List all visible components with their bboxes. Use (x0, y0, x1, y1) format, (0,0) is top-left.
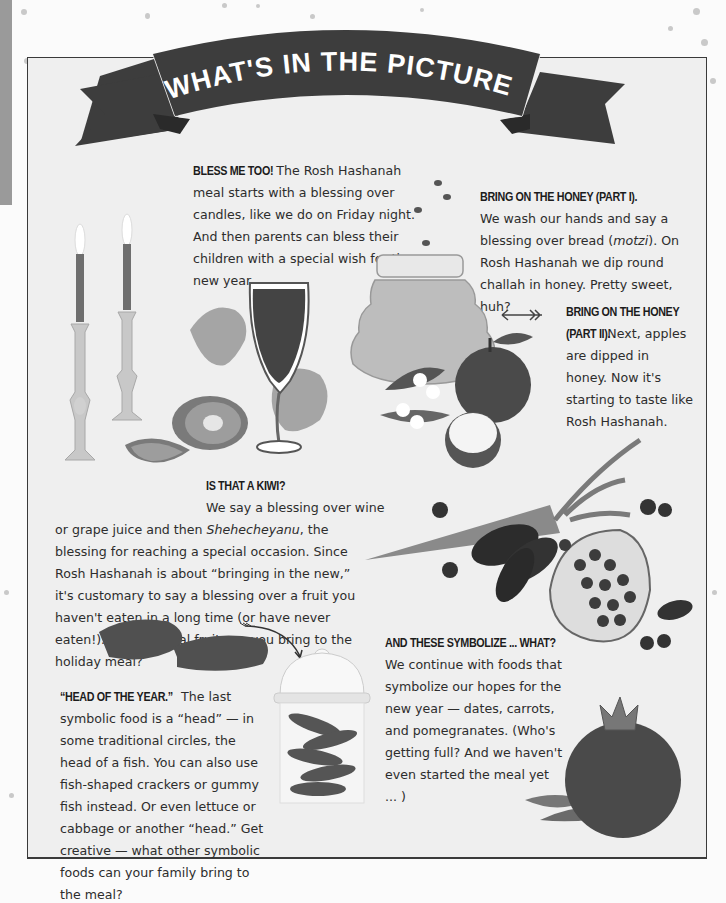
title-banner: WHAT'S IN THE PICTURE? (60, 14, 630, 154)
kiwi-line1: We say a blessing over wine (206, 500, 384, 515)
honey1-section: BRING ON THE HONEY (PART I). We wash our… (480, 186, 690, 318)
carrot-icon (365, 425, 700, 655)
ribbon-icon: WHAT'S IN THE PICTURE? (60, 14, 630, 154)
page-edge-strip (0, 0, 12, 205)
arrow-icon (500, 307, 545, 323)
honey2-section: BRING ON THE HONEY (PART II). Next, appl… (566, 301, 694, 433)
confetti-dot (668, 26, 673, 31)
kiwi-icon (125, 390, 255, 470)
honey1-body-italic: motzi (613, 233, 648, 248)
confetti-dot (693, 8, 700, 15)
kiwi-body-before: or grape juice and then (55, 522, 207, 537)
confetti-dot (9, 793, 14, 798)
fish-jar-icon (270, 645, 375, 810)
bees-icon (400, 175, 470, 255)
confetti-dot (420, 8, 424, 12)
honey2-heading-line1: BRING ON THE HONEY (566, 301, 676, 323)
honey2-heading-line2: (PART II). (566, 323, 610, 345)
confetti-dot (701, 39, 708, 46)
confetti-dot (712, 590, 717, 595)
head-body: The last symbolic food is a “head” — in … (60, 689, 263, 902)
kiwi-heading: IS THAT A KIWI? (206, 475, 338, 497)
pomegranate-icon (525, 690, 695, 850)
head-heading: “HEAD OF THE YEAR.” (60, 686, 173, 708)
confetti-dot (710, 78, 716, 84)
confetti-dot (21, 9, 27, 15)
confetti-dot (4, 590, 9, 595)
honey1-heading: BRING ON THE HONEY (PART I). (480, 186, 661, 208)
head-section: “HEAD OF THE YEAR.” The last symbolic fo… (60, 686, 265, 903)
confetti-dot (222, 3, 227, 8)
bless-heading: BLESS ME TOO! (193, 160, 273, 182)
confetti-dot (256, 4, 260, 8)
kiwi-body-italic: Shehecheyanu (207, 522, 300, 537)
